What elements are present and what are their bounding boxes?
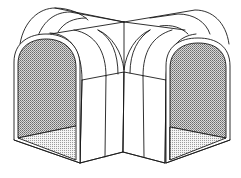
diagram-canvas: L-shaped arched tunnel corner piece (0, 0, 241, 178)
left-opening (14, 34, 80, 163)
left-inner-wall-shade (18, 39, 76, 138)
right-opening (166, 38, 230, 163)
tunnel-corner-drawing (0, 0, 241, 178)
